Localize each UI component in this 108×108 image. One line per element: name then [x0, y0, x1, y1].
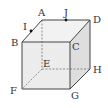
- label-J: J: [63, 7, 68, 18]
- cube-diagram: A J D I B C E H F G: [0, 0, 108, 108]
- label-H: H: [93, 64, 102, 75]
- cube-svg: A J D I B C E H F G: [0, 0, 108, 108]
- label-G: G: [71, 90, 79, 101]
- label-B: B: [11, 37, 18, 48]
- point-I-marker: [30, 30, 33, 33]
- label-I: I: [23, 21, 27, 32]
- label-A: A: [37, 7, 46, 18]
- point-J-marker: [65, 19, 68, 22]
- label-C: C: [72, 41, 80, 52]
- label-D: D: [93, 14, 101, 25]
- label-F: F: [10, 85, 17, 96]
- label-E: E: [43, 58, 50, 69]
